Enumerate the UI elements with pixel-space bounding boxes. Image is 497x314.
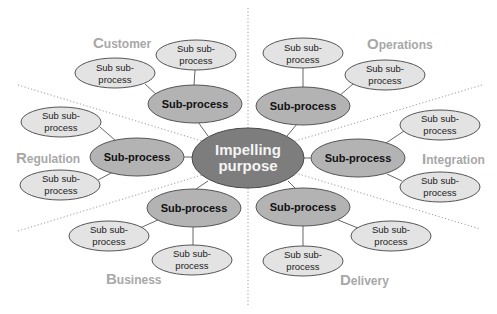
- connector: [287, 124, 297, 136]
- connector: [100, 127, 116, 141]
- subprocess-node[interactable]: Sub-process: [147, 189, 241, 227]
- central-node-label-line2: purpose: [218, 157, 277, 174]
- svg-text:process: process: [374, 236, 408, 247]
- svg-text:process: process: [179, 55, 213, 66]
- svg-text:Sub sub-: Sub sub-: [42, 173, 80, 184]
- category-label-integration: Integration: [422, 150, 485, 167]
- subsubprocess-node[interactable]: Sub sub- process: [263, 38, 343, 68]
- subprocess-node[interactable]: Sub-process: [311, 139, 405, 177]
- svg-text:Sub sub-: Sub sub-: [173, 248, 211, 259]
- subprocess-label: Sub-process: [270, 201, 337, 213]
- svg-text:process: process: [98, 74, 132, 85]
- subprocess-label: Sub-process: [162, 98, 229, 110]
- subsubprocess-node[interactable]: Sub sub- process: [345, 60, 425, 90]
- svg-text:Sub sub-: Sub sub-: [421, 113, 459, 124]
- connector: [140, 219, 160, 228]
- subsubprocess-node[interactable]: Sub sub- process: [263, 246, 343, 276]
- svg-text:Sub sub-: Sub sub-: [284, 249, 322, 260]
- svg-text:process: process: [175, 260, 209, 271]
- central-node[interactable]: Impelling purpose: [192, 128, 304, 188]
- subsubprocess-node[interactable]: Sub sub- process: [152, 245, 232, 275]
- svg-text:process: process: [44, 122, 78, 133]
- svg-text:Sub sub-: Sub sub-: [366, 63, 404, 74]
- subprocess-node[interactable]: Sub-process: [90, 138, 184, 176]
- svg-text:process: process: [368, 75, 402, 86]
- branch-integration: Integration Sub-process Sub sub- process…: [311, 110, 485, 202]
- svg-text:Sub sub-: Sub sub-: [177, 43, 215, 54]
- branch-business: Business Sub-process Sub sub- process Su…: [69, 189, 241, 287]
- subprocess-node[interactable]: Sub-process: [148, 85, 242, 123]
- subprocess-node[interactable]: Sub-process: [256, 87, 350, 125]
- category-label-regulation: Regulation: [16, 149, 80, 166]
- subprocess-node[interactable]: Sub-process: [256, 188, 350, 226]
- subsubprocess-node[interactable]: Sub sub- process: [351, 221, 431, 251]
- svg-text:Sub sub-: Sub sub-: [90, 224, 128, 235]
- branch-operations: Operations Sub-process Sub sub- process …: [256, 35, 433, 125]
- subsubprocess-node[interactable]: Sub sub- process: [400, 172, 480, 202]
- mind-map-diagram: Impelling purpose Customer Sub-process S…: [0, 0, 497, 314]
- category-label-customer: Customer: [93, 34, 152, 51]
- svg-text:Sub sub-: Sub sub-: [372, 224, 410, 235]
- category-label-operations: Operations: [367, 35, 433, 52]
- svg-text:Sub sub-: Sub sub-: [96, 62, 134, 73]
- subsubprocess-node[interactable]: Sub sub- process: [156, 40, 236, 70]
- connector: [339, 84, 353, 96]
- svg-text:process: process: [423, 125, 457, 136]
- connector: [386, 131, 404, 143]
- subprocess-label: Sub-process: [325, 152, 392, 164]
- svg-text:process: process: [286, 261, 320, 272]
- subprocess-label: Sub-process: [270, 100, 337, 112]
- subsubprocess-node[interactable]: Sub sub- process: [75, 58, 155, 88]
- svg-text:Sub sub-: Sub sub-: [42, 110, 80, 121]
- subsubprocess-node[interactable]: Sub sub- process: [21, 107, 101, 137]
- subprocess-label: Sub-process: [104, 151, 171, 163]
- subsubprocess-node[interactable]: Sub sub- process: [69, 221, 149, 251]
- connector: [338, 220, 358, 228]
- connector: [387, 174, 402, 181]
- subsubprocess-node[interactable]: Sub sub- process: [20, 170, 100, 200]
- subsubprocess-node[interactable]: Sub sub- process: [400, 110, 480, 140]
- svg-text:process: process: [286, 54, 320, 65]
- svg-text:process: process: [423, 187, 457, 198]
- category-label-delivery: Delivery: [340, 271, 389, 288]
- connector: [196, 181, 208, 189]
- branch-regulation: Regulation Sub-process Sub sub- process …: [16, 107, 184, 200]
- connector: [198, 122, 208, 136]
- central-node-label-line1: Impelling: [215, 141, 281, 158]
- category-label-business: Business: [106, 270, 162, 287]
- svg-text:process: process: [92, 236, 126, 247]
- svg-text:Sub sub-: Sub sub-: [284, 42, 322, 53]
- branch-delivery: Delivery Sub-process Sub sub- process Su…: [256, 188, 431, 288]
- svg-text:Sub sub-: Sub sub-: [421, 175, 459, 186]
- svg-text:process: process: [44, 185, 78, 196]
- subprocess-label: Sub-process: [161, 202, 228, 214]
- connector: [194, 70, 195, 85]
